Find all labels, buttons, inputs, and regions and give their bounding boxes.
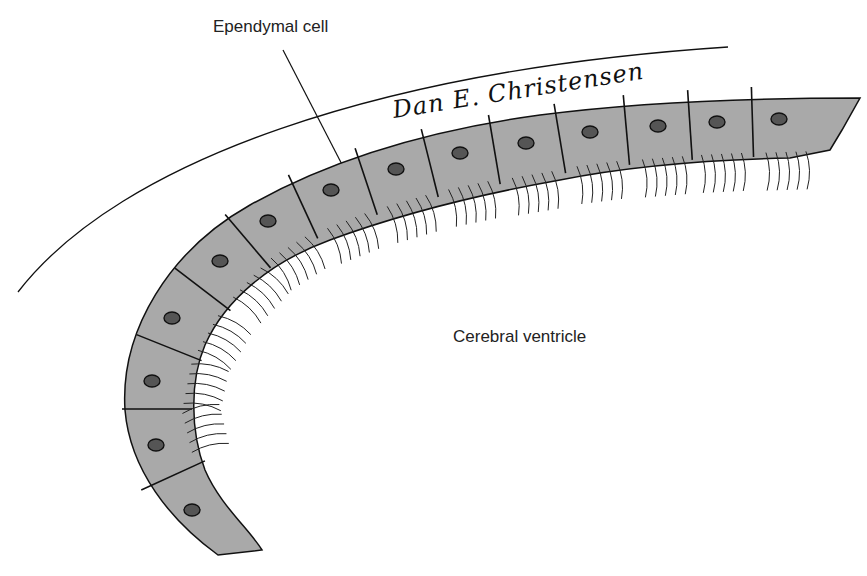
cilium: [198, 350, 231, 369]
nucleus: [650, 120, 666, 132]
nucleus: [452, 147, 468, 159]
nucleus: [518, 137, 534, 149]
cilium: [218, 316, 251, 335]
ependymal-illustration: [0, 0, 867, 576]
nucleus: [388, 163, 404, 175]
leader-line: [283, 50, 350, 180]
nucleus: [709, 116, 725, 128]
label-cerebral-ventricle: Cerebral ventricle: [453, 327, 586, 347]
nucleus: [582, 126, 598, 138]
nucleus: [260, 215, 276, 227]
nucleus: [148, 439, 164, 451]
cilium: [806, 151, 810, 189]
nucleus: [771, 113, 787, 125]
ependymal-diagram: Ependymal cell Cerebral ventricle Dan E.…: [0, 0, 867, 576]
nucleus: [323, 184, 339, 196]
nucleus: [144, 375, 160, 387]
nucleus: [164, 312, 180, 324]
nucleus: [212, 255, 228, 267]
nucleus: [184, 504, 200, 516]
label-ependymal-cell: Ependymal cell: [213, 17, 328, 37]
cilium: [208, 333, 241, 352]
cilium: [213, 324, 246, 343]
cilium: [203, 342, 236, 361]
